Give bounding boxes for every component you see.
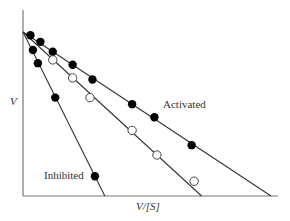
data-point-activated xyxy=(88,75,96,83)
inhibited-annotation: Inhibited xyxy=(44,170,84,181)
data-point-activated xyxy=(26,31,34,39)
data-point-control xyxy=(128,126,136,134)
data-point-control xyxy=(190,177,198,185)
data-point-inhibited xyxy=(29,46,37,54)
data-point-control xyxy=(153,151,161,159)
data-point-inhibited xyxy=(91,172,99,180)
data-point-activated xyxy=(150,113,158,121)
data-point-activated xyxy=(36,38,44,46)
data-point-control xyxy=(68,74,76,82)
data-point-control xyxy=(49,56,57,64)
y-axis-label: V xyxy=(10,96,17,107)
x-axis-label: V/[S] xyxy=(136,201,160,212)
data-point-activated xyxy=(49,47,57,55)
eadie-hofstee-plot xyxy=(0,0,290,221)
data-point-activated xyxy=(187,141,195,149)
data-point-inhibited xyxy=(51,93,59,101)
data-point-control xyxy=(86,93,94,101)
data-point-activated xyxy=(128,100,136,108)
activated-annotation: Activated xyxy=(163,99,206,110)
data-point-inhibited xyxy=(34,59,42,67)
data-point-activated xyxy=(68,61,76,69)
